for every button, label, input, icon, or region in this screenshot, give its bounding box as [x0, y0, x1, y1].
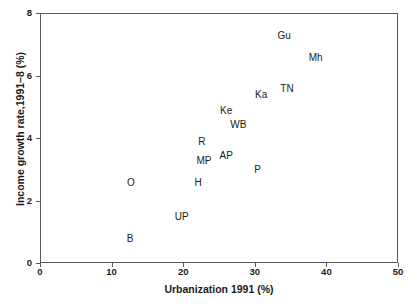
- x-axis-tick-label: 10: [92, 266, 132, 278]
- data-point-label: P: [254, 164, 261, 175]
- y-axis-title: Income growth rate,1991–8 (%): [14, 4, 26, 254]
- data-point-label: B: [127, 233, 134, 244]
- x-axis-tick-label: 20: [163, 266, 203, 278]
- x-axis-tick-label: 40: [306, 266, 346, 278]
- data-point-label: TN: [280, 83, 293, 94]
- x-axis-tick-label: 50: [378, 266, 417, 278]
- data-point-label: Gu: [277, 29, 290, 40]
- y-axis-tick-label: 0: [0, 258, 32, 268]
- x-axis-title: Urbanization 1991 (%): [40, 283, 398, 295]
- data-point-label: WB: [230, 118, 246, 129]
- y-axis-tick: [36, 263, 40, 264]
- data-point-label: Ke: [220, 104, 232, 115]
- y-axis-tick: [36, 138, 40, 139]
- scatter-chart-figure: 01020304050 02468 GuMhTNKaKeWBRAPMPPOHUP…: [0, 0, 417, 307]
- data-point-label: MP: [196, 154, 211, 165]
- data-point-label: R: [198, 136, 205, 147]
- plot-area: [40, 13, 398, 263]
- y-axis-tick: [36, 76, 40, 77]
- data-point-label: H: [195, 176, 202, 187]
- data-point-label: Ka: [255, 89, 267, 100]
- data-point-label: Mh: [309, 51, 323, 62]
- data-point-label: UP: [175, 211, 189, 222]
- x-axis-tick-label: 30: [235, 266, 275, 278]
- y-axis-tick: [36, 201, 40, 202]
- y-axis-tick: [36, 13, 40, 14]
- data-point-label: AP: [219, 150, 232, 161]
- data-point-label: O: [127, 176, 135, 187]
